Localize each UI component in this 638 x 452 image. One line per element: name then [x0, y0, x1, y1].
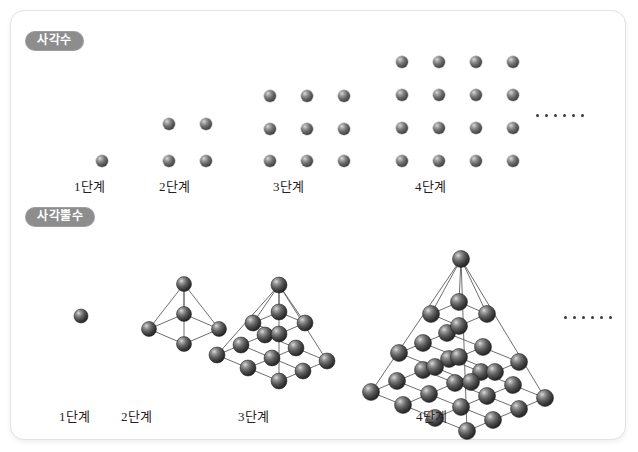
sphere — [319, 353, 335, 369]
section-badge-square-pyramidal-numbers: 사각뿔수 — [25, 207, 95, 227]
sphere — [451, 349, 468, 366]
square-numbers-ellipsis — [536, 114, 584, 117]
sphere — [453, 251, 470, 268]
square-stage-label-4: 4단계 — [415, 176, 446, 195]
dot — [507, 122, 519, 134]
sphere — [142, 322, 157, 337]
sphere — [257, 327, 273, 343]
pyramid-stage-label-1: 1단계 — [59, 406, 90, 425]
square-stage-label-3: 3단계 — [273, 176, 304, 195]
sphere — [271, 277, 287, 293]
dot — [396, 89, 408, 101]
dot — [470, 89, 482, 101]
sphere — [74, 309, 88, 323]
square-stage-label-1: 1단계 — [74, 176, 105, 195]
dot — [507, 155, 519, 167]
sphere — [209, 347, 225, 363]
sphere — [451, 294, 468, 311]
sphere — [505, 377, 522, 394]
sphere — [479, 388, 496, 405]
dot — [301, 90, 313, 102]
sphere — [463, 374, 480, 391]
dot — [470, 56, 482, 68]
sphere — [415, 335, 432, 352]
sphere — [271, 326, 287, 342]
sphere — [453, 399, 470, 416]
sphere — [479, 306, 496, 323]
pyramid-stage-label-3: 3단계 — [238, 406, 269, 425]
dot — [507, 89, 519, 101]
dot — [338, 123, 350, 135]
dot — [163, 118, 175, 130]
sphere — [245, 315, 261, 331]
sphere — [297, 315, 313, 331]
sphere — [233, 337, 249, 353]
sphere — [264, 350, 280, 366]
dot — [301, 155, 313, 167]
dot — [396, 155, 408, 167]
sphere — [391, 345, 408, 362]
section-badge-square-numbers: 사각수 — [25, 31, 84, 51]
dot — [301, 123, 313, 135]
dot — [264, 90, 276, 102]
pyramid-stage-1 — [61, 296, 101, 336]
sphere — [240, 360, 256, 376]
dot — [200, 118, 212, 130]
dot — [433, 89, 445, 101]
sphere — [421, 386, 438, 403]
dot — [264, 155, 276, 167]
dot — [433, 56, 445, 68]
sphere — [389, 373, 406, 390]
dot — [338, 90, 350, 102]
dot — [264, 123, 276, 135]
sphere — [511, 354, 528, 371]
sphere — [271, 304, 287, 320]
sphere — [288, 340, 304, 356]
square-stage-label-2: 2단계 — [159, 176, 190, 195]
dot — [396, 122, 408, 134]
sphere — [177, 307, 192, 322]
dot — [470, 155, 482, 167]
dot — [433, 155, 445, 167]
sphere — [427, 359, 444, 376]
pyramid-stage-3 — [199, 243, 359, 393]
pyramid-stage-label-4: 4단계 — [416, 406, 447, 425]
sphere — [395, 397, 412, 414]
sphere — [451, 318, 468, 335]
sphere — [459, 423, 476, 440]
dot — [507, 56, 519, 68]
sphere — [363, 384, 380, 401]
dot — [163, 155, 175, 167]
dot — [470, 122, 482, 134]
diagram-card: 사각수 — [10, 10, 626, 440]
pyramid-stage-4 — [349, 229, 579, 414]
sphere — [537, 390, 554, 407]
sphere — [485, 412, 502, 429]
sphere — [447, 375, 464, 392]
sphere — [271, 373, 287, 389]
sphere — [177, 277, 192, 292]
sphere — [487, 364, 504, 381]
dot — [96, 155, 108, 167]
dot — [200, 155, 212, 167]
dot — [396, 56, 408, 68]
pyramid-stage-label-2: 2단계 — [121, 406, 152, 425]
sphere — [475, 339, 492, 356]
sphere — [423, 306, 440, 323]
sphere — [511, 401, 528, 418]
pyramidal-numbers-ellipsis — [564, 316, 612, 319]
dot — [433, 122, 445, 134]
sphere — [177, 337, 192, 352]
sphere — [295, 363, 311, 379]
dot — [338, 155, 350, 167]
